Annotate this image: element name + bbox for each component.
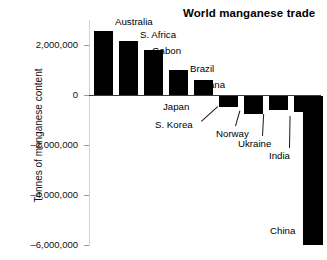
y-axis-line xyxy=(89,20,90,246)
leader-line-s-korea xyxy=(201,106,218,121)
y-tick-label-2000000: 2,000,000 xyxy=(36,39,78,50)
bar-label-s-korea: S. Korea xyxy=(155,119,193,130)
bar-label-japan: Japan xyxy=(163,101,189,112)
bar-label-s-africa: S. Africa xyxy=(140,29,176,40)
y-tick-mark-2000000 xyxy=(84,45,89,46)
bar-label-australia: Australia xyxy=(115,16,153,27)
y-tick-mark-neg2000000 xyxy=(84,145,89,146)
bar-china xyxy=(303,96,323,245)
bar-australia xyxy=(94,31,113,95)
bar-brazil xyxy=(169,70,188,95)
chart-canvas: World manganese trade Tonnes of manganes… xyxy=(0,0,327,260)
bar-label-ukraine: Ukraine xyxy=(238,138,271,149)
bar-s-korea xyxy=(244,96,263,114)
bar-label-india: India xyxy=(269,150,290,161)
bar-label-china: China xyxy=(270,225,295,236)
bar-label-gabon: Gabon xyxy=(152,45,181,56)
leader-line-india xyxy=(289,116,291,148)
bar-label-brazil: Brazil xyxy=(190,63,214,74)
bar-norway xyxy=(269,96,288,110)
bar-gabon xyxy=(144,50,163,95)
zero-baseline xyxy=(89,95,321,96)
y-tick-label-neg6000000: –6,000,000 xyxy=(30,239,78,250)
y-tick-label-neg4000000: –4,000,000 xyxy=(30,189,78,200)
y-tick-mark-neg6000000 xyxy=(84,245,89,246)
y-tick-mark-neg4000000 xyxy=(84,195,89,196)
y-tick-label-0: 0 xyxy=(73,89,78,100)
leader-line-ukraine xyxy=(262,114,264,136)
y-tick-label-neg2000000: –2,000,000 xyxy=(30,139,78,150)
leader-line-norway xyxy=(235,111,240,127)
bar-label-ghana: Ghana xyxy=(196,79,225,90)
chart-title: World manganese trade xyxy=(183,7,315,19)
bar-s-africa xyxy=(119,41,138,95)
y-axis-title: Tonnes of manganese content xyxy=(33,36,44,236)
bar-japan xyxy=(219,96,238,107)
